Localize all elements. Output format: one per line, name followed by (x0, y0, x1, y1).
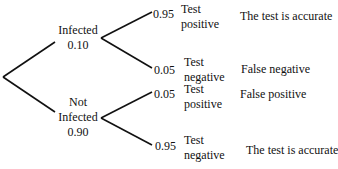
prob-notinfected-positive: 0.05 (154, 88, 175, 101)
node-not-infected-label-2: Infected (56, 111, 100, 124)
outcome-infected-positive: Test positive (181, 3, 219, 31)
node-not-infected-prob: 0.90 (56, 126, 100, 139)
branch-infected-positive (101, 12, 152, 38)
outcome-line1: Test (181, 3, 219, 16)
interpretation-notinfected-positive: False positive (240, 88, 306, 101)
prob-notinfected-negative: 0.95 (155, 140, 176, 153)
outcome-infected-negative: Test negative (184, 56, 225, 84)
outcome-line2: negative (184, 149, 225, 162)
branch-notinfected-negative (101, 118, 152, 145)
node-infected-label: Infected (56, 24, 100, 37)
node-not-infected-label-1: Not (56, 96, 100, 109)
branch-infected-negative (101, 38, 152, 68)
branch-root-not-infected (3, 77, 55, 112)
outcome-notinfected-positive: Test positive (184, 83, 222, 111)
prob-infected-positive: 0.95 (153, 8, 174, 21)
outcome-notinfected-negative: Test negative (184, 134, 225, 162)
interpretation-infected-negative: False negative (241, 63, 310, 76)
outcome-line1: Test (184, 83, 222, 96)
outcome-line2: positive (184, 98, 222, 111)
node-not-infected: Not Infected 0.90 (56, 96, 100, 139)
interpretation-infected-positive: The test is accurate (240, 10, 332, 23)
branch-notinfected-positive (101, 92, 152, 118)
outcome-line1: Test (184, 56, 225, 69)
outcome-line1: Test (184, 134, 225, 147)
node-infected: Infected 0.10 (56, 24, 100, 52)
node-infected-prob: 0.10 (56, 39, 100, 52)
outcome-line2: positive (181, 18, 219, 31)
interpretation-notinfected-negative: The test is accurate (246, 144, 338, 157)
prob-infected-negative: 0.05 (154, 64, 175, 77)
branch-root-infected (3, 42, 55, 77)
